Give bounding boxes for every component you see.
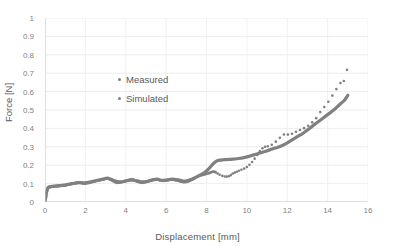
- y-tick-label: 0.2: [8, 161, 34, 170]
- x-tick-label: 4: [124, 206, 128, 215]
- y-axis-label-wrapper: Force [N]: [2, 0, 16, 205]
- plot-area: [45, 18, 368, 202]
- legend-label-measured: Measured: [126, 74, 168, 85]
- y-tick-label: 0.1: [8, 179, 34, 188]
- y-tick-label: 0.8: [8, 50, 34, 59]
- y-tick-label: 0.3: [8, 142, 34, 151]
- legend-item-simulated: Simulated: [118, 93, 168, 104]
- x-tick-label: 6: [164, 206, 168, 215]
- legend-marker-simulated-icon: [118, 97, 121, 100]
- series-simulated: [45, 95, 348, 202]
- y-tick-label: 1: [8, 14, 34, 23]
- y-tick-label: 0.6: [8, 87, 34, 96]
- x-tick-label: 16: [364, 206, 373, 215]
- x-tick-label: 0: [43, 206, 47, 215]
- legend-marker-measured-icon: [118, 78, 121, 81]
- x-tick-label: 8: [204, 206, 208, 215]
- legend-item-measured: Measured: [118, 74, 168, 85]
- plot-svg: [45, 18, 368, 202]
- y-tick-label: 0.4: [8, 124, 34, 133]
- data-series-layer: [45, 69, 348, 202]
- y-tick-label: 0.5: [8, 106, 34, 115]
- y-tick-label: 0.7: [8, 69, 34, 78]
- y-tick-label: 0.9: [8, 32, 34, 41]
- x-tick-label: 10: [242, 206, 251, 215]
- y-tick-label: 0: [8, 198, 34, 207]
- x-tick-label: 2: [83, 206, 87, 215]
- chart-container: Force [N] 00.10.20.30.40.50.60.70.80.91 …: [0, 0, 395, 246]
- x-tick-label: 14: [323, 206, 332, 215]
- legend-label-simulated: Simulated: [126, 93, 168, 104]
- x-axis-label: Displacement [mm]: [0, 231, 395, 242]
- x-tick-label: 12: [283, 206, 292, 215]
- series-line: [45, 95, 348, 202]
